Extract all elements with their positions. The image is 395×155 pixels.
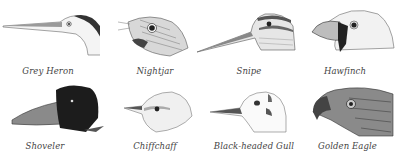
shoveler-illustration [0,80,110,138]
hawfinch-illustration [310,0,395,62]
bird-snipe: Snipe [195,0,305,78]
bird-black-headed-gull: Black-headed Gull [200,80,300,155]
black-headed-gull-illustration [200,80,300,138]
chiffchaff-illustration [120,80,200,138]
bird-hawfinch: Hawfinch [310,0,395,78]
bird-golden-eagle: Golden Eagle [305,80,395,155]
caption-golden-eagle: Golden Eagle [305,141,390,151]
golden-eagle-illustration [305,80,395,138]
caption-snipe: Snipe [203,66,295,76]
bird-chiffchaff: Chiffchaff [120,80,200,155]
bird-grey-heron: Grey Heron [0,0,96,78]
caption-grey-heron: Grey Heron [0,66,96,76]
caption-black-headed-gull: Black-headed Gull [204,141,304,151]
caption-nightjar: Nightjar [110,66,200,76]
caption-shoveler: Shoveler [0,141,90,151]
caption-hawfinch: Hawfinch [310,66,380,76]
nightjar-illustration [110,0,200,62]
bird-nightjar: Nightjar [110,0,200,78]
snipe-illustration [195,0,305,62]
caption-chiffchaff: Chiffchaff [120,141,190,151]
grey-heron-illustration [0,0,100,62]
bird-shoveler: Shoveler [0,80,110,155]
